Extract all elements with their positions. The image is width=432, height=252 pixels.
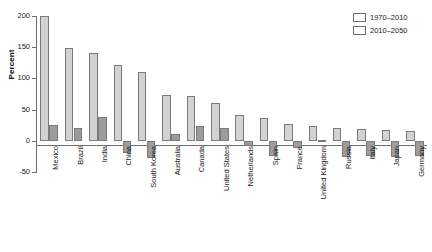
bar-historic xyxy=(284,124,293,141)
x-axis-label: Mexico xyxy=(52,146,60,170)
x-axis-label: Italy xyxy=(369,146,377,160)
bar-projected xyxy=(196,126,205,140)
x-axis-label: Japan xyxy=(393,146,401,166)
bar-historic xyxy=(357,129,366,141)
bar-historic xyxy=(65,48,74,140)
bar-historic xyxy=(40,16,49,141)
bar-projected xyxy=(220,128,229,140)
bar-historic xyxy=(382,130,391,141)
bar-projected xyxy=(171,134,180,141)
x-axis-label: South Korea xyxy=(150,146,158,188)
x-axis-labels: MexicoBrazilIndiaChinaSouth KoreaAustral… xyxy=(37,146,427,252)
y-tick-label: 150 xyxy=(17,42,30,51)
x-axis-label: Germany xyxy=(418,146,426,177)
bar-projected xyxy=(318,140,327,142)
bar-projected xyxy=(74,128,83,140)
x-axis-label: China xyxy=(125,146,133,166)
y-tick-label: 0 xyxy=(26,136,30,145)
y-axis-title: Percent xyxy=(7,35,16,95)
y-tick-label: 200 xyxy=(17,11,30,20)
bar-projected xyxy=(49,125,58,141)
x-axis-label: Australia xyxy=(174,146,182,175)
y-tick-label: -50 xyxy=(19,167,30,176)
bar-historic xyxy=(260,118,269,140)
bar-historic xyxy=(406,131,415,140)
x-axis-label: Spain xyxy=(272,146,280,165)
x-axis-label: France xyxy=(296,146,304,169)
y-tick-label: 50 xyxy=(22,105,30,114)
bar-historic xyxy=(235,115,244,141)
bar-historic xyxy=(89,53,98,141)
bar-historic xyxy=(309,126,318,140)
bar-historic xyxy=(187,96,196,140)
x-axis-label: Netherlands xyxy=(247,146,255,186)
x-axis-label: Canada xyxy=(198,146,206,172)
bar-historic xyxy=(114,65,123,141)
x-axis-label: United Kingdom xyxy=(320,146,328,199)
x-axis-label: United States xyxy=(223,146,231,191)
x-axis-label: Russia xyxy=(345,146,353,169)
x-axis-label: India xyxy=(101,146,109,162)
x-axis-label: Brazil xyxy=(77,146,85,165)
bar-historic xyxy=(211,103,220,140)
bar-projected xyxy=(98,117,107,141)
chart-figure: 1970–2010 2010–2050 Percent 200150100500… xyxy=(0,0,432,252)
bar-historic xyxy=(138,72,147,141)
bar-historic xyxy=(162,95,171,141)
y-tick-label: 100 xyxy=(17,73,30,82)
bar-historic xyxy=(333,128,342,141)
